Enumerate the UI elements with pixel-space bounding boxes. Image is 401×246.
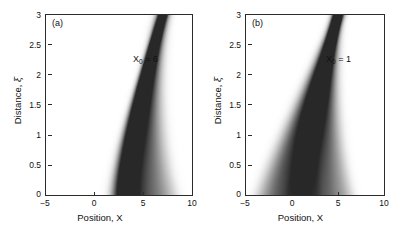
x-tick-mark [384,192,385,196]
y-tick-mark [48,165,52,166]
y-axis-title-a: Distance, ξ [12,46,23,156]
y-axis-title-b: Distance, ξ [212,46,223,156]
y-tick-label: 3 [211,11,241,20]
y-tick-mark [248,195,252,196]
y-tick-mark [248,104,252,105]
x-tick-label: 5 [326,198,350,208]
plot-area-b [245,14,385,196]
caustic-intensity-map-b [246,15,384,195]
xi-symbol: ξ [12,77,23,82]
y-tick-label: 3 [11,11,41,20]
panel-b: (b) X0 = 1 3 2.5 2 1.5 1 0.5 0 −5 0 5 10… [200,0,401,246]
y-tick-mark [248,135,252,136]
y-axis-title-prefix: Distance, [12,82,23,124]
x-tick-mark [245,192,246,196]
x-tick-mark [292,192,293,196]
y-tick-mark [48,74,52,75]
annotation-x0-b: X0 = 1 [326,54,351,67]
annotation-value-b: = 1 [338,54,351,64]
panel-label-b: (b) [252,18,263,29]
x-tick-label: −5 [233,198,257,208]
x-axis-title-b: Position, X [200,212,401,223]
x-tick-label: 5 [131,198,155,208]
y-tick-mark [248,74,252,75]
caustic-intensity-map-a [46,15,192,195]
x-tick-label: −5 [33,198,57,208]
y-tick-mark [248,165,252,166]
x-tick-label: 0 [82,198,106,208]
xi-symbol: ξ [212,77,223,82]
annotation-subscript-a: 0 [139,58,143,65]
x-tick-label: 10 [372,198,396,208]
x-tick-mark [94,192,95,196]
y-axis-title-prefix: Distance, [212,82,223,124]
x-tick-mark [45,192,46,196]
x-tick-mark [192,192,193,196]
annotation-subscript-b: 0 [332,58,336,65]
y-tick-mark [48,135,52,136]
y-tick-mark [48,44,52,45]
panel-a: (a) X0 = 6 3 2.5 2 1.5 1 0.5 0 −5 0 5 10… [0,0,200,246]
plot-area-a [45,14,193,196]
x-axis-title-a: Position, X [0,212,200,223]
x-tick-mark [338,192,339,196]
panel-label-a: (a) [52,18,63,29]
y-tick-mark [48,104,52,105]
y-tick-mark [48,195,52,196]
y-tick-label: 0.5 [11,161,41,170]
y-tick-mark [248,44,252,45]
x-tick-label: 0 [280,198,304,208]
y-tick-mark [248,14,252,15]
figure-root: (a) X0 = 6 3 2.5 2 1.5 1 0.5 0 −5 0 5 10… [0,0,401,246]
y-tick-mark [48,14,52,15]
x-tick-mark [143,192,144,196]
y-tick-label: 0.5 [211,161,241,170]
annotation-x0-a: X0 = 6 [133,54,158,67]
annotation-value-a: = 6 [145,54,158,64]
